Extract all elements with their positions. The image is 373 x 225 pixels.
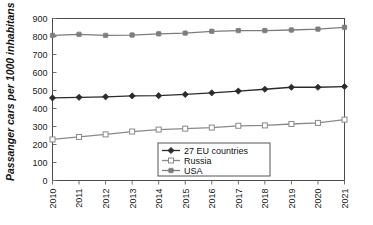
line-chart: Passanger cars per 1000 inhabitans 01002… [0,0,373,225]
x-tick-label: 2019 [287,189,297,209]
data-point-marker [156,32,160,36]
data-point-marker [289,28,293,32]
chart-legend: 27 EU countriesRussiaUSA [158,143,270,176]
data-point-marker [210,29,214,33]
y-tick-label: 100 [32,158,47,168]
data-point-marker [183,31,187,35]
y-tick-label: 900 [32,14,47,24]
y-tick-label: 400 [32,104,47,114]
data-point-marker [236,123,241,128]
y-tick-label: 800 [32,32,47,42]
data-point-marker [289,121,294,126]
x-tick-label: 2013 [128,189,138,209]
data-point-marker [50,137,55,142]
data-point-marker [342,117,347,122]
x-tick-label: 2012 [101,189,111,209]
y-tick-label: 500 [32,86,47,96]
data-point-marker [50,33,54,37]
data-point-marker [156,127,161,132]
x-tick-label: 2021 [340,189,350,209]
data-point-marker [236,28,240,32]
x-tick-label: 2010 [48,189,58,209]
data-point-marker [77,32,81,36]
data-point-marker [130,33,134,37]
data-point-marker [263,28,267,32]
y-axis-title: Passanger cars per 1000 inhabitans [4,2,16,181]
chart-container: Passanger cars per 1000 inhabitans 01002… [0,0,373,225]
data-point-marker [103,33,107,37]
y-tick-label: 700 [32,50,47,60]
y-tick-label: 600 [32,68,47,78]
data-point-marker [130,129,135,134]
legend-item-label: USA [184,166,203,176]
x-tick-label: 2018 [260,189,270,209]
data-point-marker [183,126,188,131]
legend-item-label: 27 EU countries [184,146,249,156]
x-tick-label: 2016 [207,189,217,209]
legend-item-label: Russia [184,156,212,166]
x-tick-label: 2014 [154,189,164,209]
y-tick-label: 0 [42,176,47,186]
data-point-marker [316,27,320,31]
data-point-marker [209,125,214,130]
data-point-marker [262,123,267,128]
data-point-marker [77,134,82,139]
x-tick-label: 2011 [74,189,84,208]
y-tick-label: 200 [32,140,47,150]
data-point-marker [103,132,108,137]
y-tick-label: 300 [32,122,47,132]
data-point-marker [342,25,346,29]
x-tick-label: 2017 [234,189,244,209]
x-tick-label: 2020 [313,189,323,209]
x-tick-label: 2015 [181,189,191,209]
data-point-marker [169,168,173,172]
data-point-marker [169,158,174,163]
data-point-marker [315,120,320,125]
